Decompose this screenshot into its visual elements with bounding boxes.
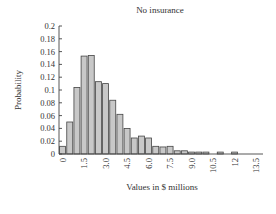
bar — [167, 146, 173, 154]
y-tick-label: 0.06 — [40, 111, 55, 121]
bar — [160, 147, 166, 154]
y-tick-label: 0 — [51, 149, 55, 159]
x-tick-label: 3.0 — [101, 158, 111, 169]
chart-title: No insurance — [136, 5, 184, 15]
y-axis-label: Probability — [13, 70, 23, 110]
x-tick-label: 7.5 — [165, 158, 175, 169]
bar — [146, 138, 152, 154]
bar — [124, 128, 130, 154]
x-tick-label: 6.0 — [144, 158, 154, 169]
y-tick-label: 0.12 — [40, 72, 55, 82]
bar — [103, 84, 109, 154]
bars-group — [60, 55, 238, 154]
bar — [81, 56, 87, 154]
y-tick-label: 0.04 — [40, 123, 56, 133]
y-tick-label: 0.16 — [40, 47, 55, 57]
x-tick-label: 0 — [58, 158, 68, 162]
y-axis: 00.020.040.060.080.10.120.140.160.180.2 — [40, 21, 62, 159]
y-tick-label: 0.2 — [44, 21, 55, 31]
bar — [131, 138, 137, 154]
bar — [95, 82, 101, 154]
x-axis-label: Values in $ millions — [126, 182, 198, 192]
y-tick-label: 0.18 — [40, 34, 55, 44]
bar — [117, 114, 123, 154]
x-tick-label: 12 — [230, 158, 240, 167]
bar — [153, 146, 159, 154]
y-tick-label: 0.02 — [40, 136, 55, 146]
bar — [67, 122, 73, 154]
x-tick-label: 4.5 — [122, 158, 132, 169]
x-tick-label: 1.5 — [79, 158, 89, 169]
y-tick-label: 0.08 — [40, 98, 55, 108]
bar — [138, 136, 144, 154]
bar — [60, 146, 66, 154]
bar — [110, 100, 116, 154]
y-tick-label: 0.1 — [44, 85, 55, 95]
bar — [88, 55, 94, 154]
y-tick-label: 0.14 — [40, 59, 56, 69]
bar — [174, 151, 180, 154]
x-tick-label: 13.5 — [251, 158, 261, 173]
chart: No insurance Probability Values in $ mil… — [0, 0, 276, 214]
bar — [74, 87, 80, 154]
bar — [181, 151, 187, 154]
x-tick-label: 9.0 — [187, 158, 197, 169]
x-tick-label: 10.5 — [208, 158, 218, 173]
x-axis: 01.53.04.56.07.59.010.51213.5 — [58, 154, 264, 173]
